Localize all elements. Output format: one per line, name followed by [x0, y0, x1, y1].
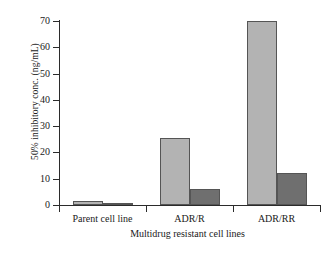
x-tick-mark: [320, 206, 321, 212]
x-category-label: ADR/RR: [258, 213, 295, 225]
x-tick-mark: [59, 206, 60, 212]
bar: [190, 189, 220, 205]
bar: [277, 173, 307, 205]
y-tick-label: 60: [4, 42, 50, 52]
y-tick-label: 50: [4, 69, 50, 79]
x-axis-title: Multidrug resistant cell lines: [0, 228, 333, 240]
y-tick-label: 0: [4, 200, 50, 210]
x-category-label: ADR/R: [174, 213, 205, 225]
bar-chart: 50% inhibitory conc. (ng/mL) 01020304050…: [0, 0, 333, 257]
bar: [247, 21, 277, 205]
y-tick-label: 20: [4, 147, 50, 157]
x-category-label: Parent cell line: [73, 213, 133, 225]
y-tick-label: 40: [4, 95, 50, 105]
bar: [103, 203, 133, 205]
bar: [160, 138, 190, 205]
plot-area: [59, 21, 320, 205]
bar: [73, 201, 103, 205]
x-tick-mark: [146, 206, 147, 212]
y-tick-label: 30: [4, 121, 50, 131]
x-axis-line: [59, 205, 321, 206]
y-tick-label: 70: [4, 16, 50, 26]
y-tick-label: 10: [4, 174, 50, 184]
x-tick-mark: [233, 206, 234, 212]
